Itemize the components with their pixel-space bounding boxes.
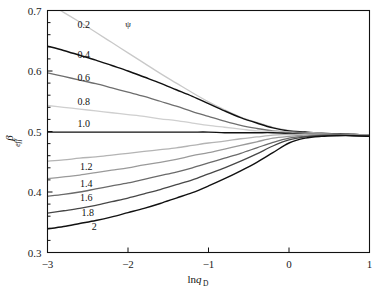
y-tick-label-0.7: 0.7 (28, 5, 42, 17)
curve-labels: 0.20.40.60.81.01.21.41.61.82 (77, 19, 96, 232)
x-tick-labels: −3−2−101 (42, 258, 373, 270)
y-tick-label-0.6: 0.6 (28, 65, 42, 77)
x-tick-label-0: 0 (286, 258, 292, 270)
x-tick-label-1: 1 (367, 258, 373, 270)
x-tick-label--1: −1 (203, 258, 215, 270)
y-tick-label-0.5: 0.5 (28, 126, 42, 138)
curve-label-psi-0.4: 0.4 (77, 49, 90, 60)
chart-svg: −3−2−101 0.30.40.50.60.7 0.20.40.60.81.0… (0, 0, 383, 293)
curve-label-psi-1.0: 1.0 (77, 118, 90, 129)
x-axis-title-subscript: D (203, 279, 209, 288)
chart-figure: −3−2−101 0.30.40.50.60.7 0.20.40.60.81.0… (0, 0, 383, 293)
x-axis-title: ln q D (187, 273, 209, 288)
x-tick-label--3: −3 (42, 258, 54, 270)
curve-psi-1.8 (48, 135, 370, 213)
curve-psi-0.2 (48, 3, 370, 135)
curve-psi-1.6 (48, 135, 370, 196)
x-axis-title-q: q (196, 273, 202, 285)
curve-label-psi-2: 2 (92, 221, 97, 232)
chart-curves (48, 3, 370, 229)
curve-label-psi-1.2: 1.2 (80, 161, 93, 172)
x-tick-label--2: −2 (122, 258, 134, 270)
y-axis-title-subscript: eff (13, 138, 22, 146)
curve-psi-1.2 (48, 134, 370, 161)
curve-label-psi-0.6: 0.6 (77, 72, 90, 83)
curve-psi-0.8 (48, 105, 370, 135)
curve-label-psi-1.4: 1.4 (80, 178, 93, 189)
legend-psi-symbol: ψ (125, 19, 131, 29)
y-tick-label-0.3: 0.3 (28, 247, 42, 259)
curve-label-psi-1.6: 1.6 (80, 192, 93, 203)
curve-label-psi-0.2: 0.2 (77, 19, 90, 30)
y-tick-labels: 0.30.40.50.60.7 (28, 5, 42, 259)
curve-label-psi-1.8: 1.8 (82, 207, 95, 218)
y-axis-title: β eff (3, 135, 22, 147)
curve-psi-0.4 (48, 46, 370, 135)
curve-label-psi-0.8: 0.8 (77, 96, 90, 107)
y-tick-label-0.4: 0.4 (28, 186, 42, 198)
curve-psi-2 (48, 136, 370, 229)
